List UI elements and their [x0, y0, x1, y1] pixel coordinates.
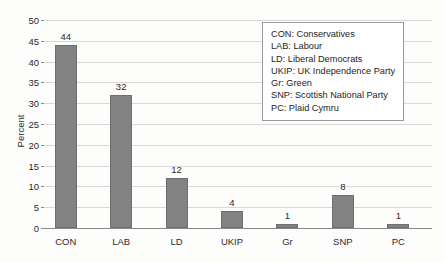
bar-value-label: 32 [116, 81, 127, 92]
y-axis-tick-label: 25 [28, 119, 39, 130]
bar-chart: Percent 05101520253035404550 44CON32LAB1… [0, 0, 444, 262]
y-axis-tick-label: 15 [28, 160, 39, 171]
y-axis-tick-label: 20 [28, 139, 39, 150]
x-axis-category-label: LD [170, 236, 182, 247]
bar [55, 45, 77, 228]
legend-entry: Gr: Green [271, 77, 395, 89]
bar [110, 95, 132, 228]
y-axis-tick-label: 50 [28, 15, 39, 26]
bar [332, 195, 354, 228]
y-axis-tick-label: 40 [28, 56, 39, 67]
legend-entry: LD: Liberal Democrats [271, 53, 395, 65]
y-axis-tick-label: 35 [28, 77, 39, 88]
y-axis-tick-label: 10 [28, 181, 39, 192]
legend-entry: UKIP: UK Independence Party [271, 65, 395, 77]
y-axis-title: Percent [15, 115, 26, 148]
x-axis-category-label: Gr [282, 236, 293, 247]
legend: CON: ConservativesLAB: LabourLD: Liberal… [262, 22, 404, 121]
legend-entry: SNP: Scottish National Party [271, 89, 395, 101]
bar [276, 224, 298, 228]
y-axis-tick-label: 45 [28, 35, 39, 46]
bar-value-label: 1 [396, 210, 401, 221]
x-axis-category-label: CON [55, 236, 76, 247]
legend-entry: CON: Conservatives [271, 28, 395, 40]
bar-value-label: 44 [60, 31, 71, 42]
bar [221, 211, 243, 228]
bar-value-label: 12 [171, 164, 182, 175]
x-axis-line [44, 228, 432, 229]
bar-value-label: 8 [340, 181, 345, 192]
legend-entry: PC: Plaid Cymru [271, 102, 395, 114]
y-axis-tick-mark [41, 228, 44, 229]
bar-value-label: 4 [229, 197, 234, 208]
x-axis-category-label: UKIP [221, 236, 243, 247]
legend-entry: LAB: Labour [271, 40, 395, 52]
x-axis-category-label: LAB [112, 236, 130, 247]
bar [387, 224, 409, 228]
y-axis-tick-label: 0 [34, 223, 39, 234]
y-axis-tick-label: 5 [34, 202, 39, 213]
bar [166, 178, 188, 228]
legend-entries: CON: ConservativesLAB: LabourLD: Liberal… [271, 28, 395, 114]
x-axis-category-label: PC [392, 236, 405, 247]
x-axis-category-label: SNP [333, 236, 353, 247]
bar-value-label: 1 [285, 210, 290, 221]
y-axis-tick-label: 30 [28, 98, 39, 109]
